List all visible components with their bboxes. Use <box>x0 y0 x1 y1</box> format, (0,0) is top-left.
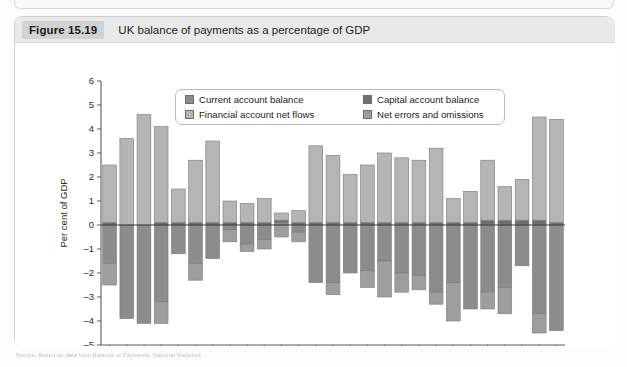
svg-text:3: 3 <box>89 147 94 158</box>
chart-legend: Current account balance Capital account … <box>175 89 505 125</box>
svg-text:–4: –4 <box>83 315 94 326</box>
legend-label-financial-account-net-flows: Financial account net flows <box>199 109 314 120</box>
svg-text:6: 6 <box>89 75 94 86</box>
figure-source-note: Source: Based on data from Balance of Pa… <box>16 352 576 358</box>
svg-text:4: 4 <box>89 123 94 134</box>
legend-swatch-financial-account-net-flows <box>185 110 194 119</box>
page-top-edge-decoration <box>14 0 614 9</box>
figure-container: Figure 15.19 UK balance of payments as a… <box>14 16 614 346</box>
figure-page: Figure 15.19 UK balance of payments as a… <box>0 0 627 367</box>
svg-text:2: 2 <box>89 171 94 182</box>
svg-text:–3: –3 <box>83 291 94 302</box>
svg-text:–2: –2 <box>83 267 94 278</box>
svg-text:–5: –5 <box>83 339 94 346</box>
legend-item-current-account-balance: Current account balance <box>185 94 363 105</box>
legend-item-net-errors-and-omissions: Net errors and omissions <box>363 109 515 120</box>
legend-item-financial-account-net-flows: Financial account net flows <box>185 109 363 120</box>
legend-item-capital-account-balance: Capital account balance <box>363 94 515 105</box>
legend-swatch-current-account-balance <box>185 95 194 104</box>
svg-text:5: 5 <box>89 99 94 110</box>
figure-header: Figure 15.19 UK balance of payments as a… <box>15 17 615 43</box>
figure-number-tag: Figure 15.19 <box>22 21 104 39</box>
figure-title: UK balance of payments as a percentage o… <box>118 24 370 36</box>
svg-text:1: 1 <box>89 195 94 206</box>
svg-text:Per cent of GDP: Per cent of GDP <box>58 178 69 247</box>
legend-label-capital-account-balance: Capital account balance <box>377 94 479 105</box>
svg-text:0: 0 <box>89 219 94 230</box>
legend-swatch-net-errors-and-omissions <box>363 110 372 119</box>
legend-swatch-capital-account-balance <box>363 95 372 104</box>
svg-text:–1: –1 <box>83 243 94 254</box>
legend-label-current-account-balance: Current account balance <box>199 94 304 105</box>
legend-label-net-errors-and-omissions: Net errors and omissions <box>377 109 484 120</box>
chart-plot-area: 6543210–1–2–3–4–5Per cent of GDP19871992… <box>15 43 615 346</box>
